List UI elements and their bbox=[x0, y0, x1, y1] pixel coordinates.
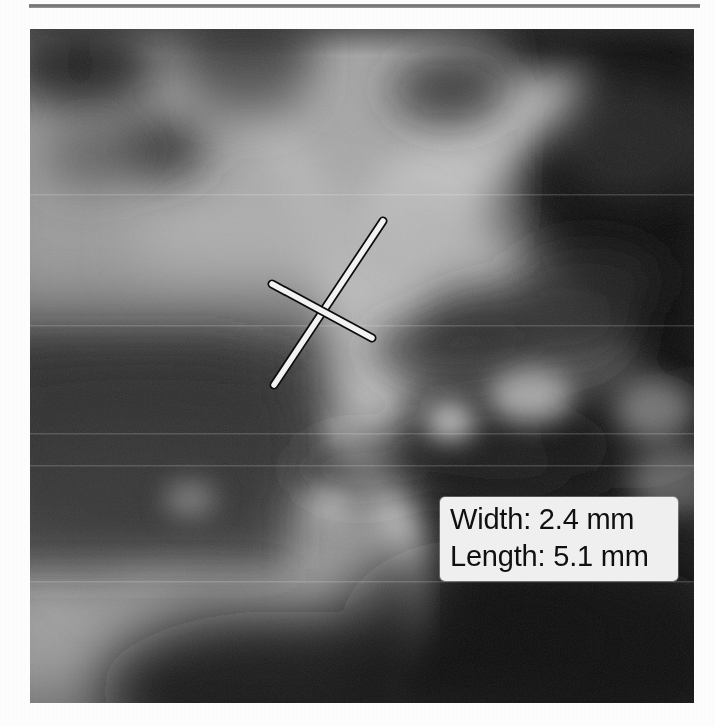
figure-top-rule bbox=[29, 4, 700, 8]
width-line[interactable] bbox=[272, 284, 372, 338]
measurement-label-box: Width: 2.4 mm Length: 5.1 mm bbox=[440, 497, 678, 581]
length-line[interactable] bbox=[274, 221, 383, 385]
measurement-crosshair[interactable] bbox=[30, 29, 694, 703]
length-measurement-text: Length: 5.1 mm bbox=[450, 538, 668, 575]
radiograph-panel: Width: 2.4 mm Length: 5.1 mm bbox=[30, 29, 694, 703]
width-measurement-text: Width: 2.4 mm bbox=[450, 501, 668, 538]
